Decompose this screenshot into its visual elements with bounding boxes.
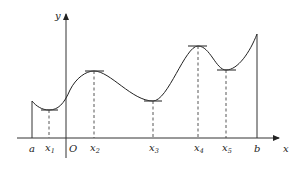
label-x4: x4 (194, 142, 204, 155)
label-x1: x1 (45, 142, 55, 155)
label-x3: x3 (149, 142, 159, 155)
origin-label: O (69, 143, 77, 154)
y-axis-label: y (54, 10, 61, 21)
label-b: b (254, 143, 260, 154)
label-x5: x5 (222, 142, 232, 155)
label-x2: x2 (90, 142, 100, 155)
function-graph: y x O a x1 x2 x3 x4 x5 b (0, 0, 293, 177)
label-a: a (29, 143, 35, 154)
x-axis-label: x (283, 143, 289, 154)
